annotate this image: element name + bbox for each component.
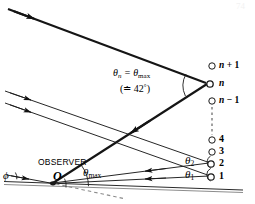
drop-label-4: 4: [219, 134, 224, 144]
horizon-line: [4, 182, 243, 193]
theta-n-formula: θn = θmax: [113, 68, 150, 80]
incoming-sunlight-ray-top: [8, 9, 206, 83]
drop-circle-1: [208, 174, 214, 180]
drop-circle-2: [208, 161, 214, 167]
theta-1-label: θ1: [185, 169, 194, 181]
drop-label-2: 2: [219, 158, 224, 168]
drop-circle-4: [209, 137, 215, 143]
incoming-ray-lower-thin: [5, 103, 209, 176]
origin-label: O: [53, 170, 62, 182]
drop-label-n: n: [219, 79, 224, 89]
reflected-ray-to-observer: [53, 84, 207, 183]
drop-circle-n-plus-1: [209, 63, 215, 69]
drop-index-symbol: n: [219, 78, 224, 88]
drop-label-1: 1: [219, 171, 224, 181]
drop-circle-n: [207, 81, 213, 87]
theta-2-subscript: 2: [190, 159, 194, 168]
drop-circle-3: [209, 149, 215, 155]
drop-label-n-plus-1: n + 1: [219, 61, 239, 71]
drop-index-suffix: + 1: [224, 60, 239, 70]
drop-label-n-minus-1: n − 1: [219, 96, 239, 106]
diagram-canvas: [0, 0, 255, 204]
formula-max-subscript: max: [138, 72, 150, 80]
rainbow-ray-diagram: OBSERVER O ϕ θmax θn = θmax (≐ 42°) θ2 θ…: [0, 0, 255, 204]
phi-label: ϕ: [3, 170, 9, 181]
theta-2-label: θ2: [185, 155, 194, 167]
drop-circle-n-minus-1: [209, 98, 215, 104]
observer-label: OBSERVER: [38, 158, 87, 167]
theta-max-label: θmax: [83, 167, 101, 179]
angle-arc-theta-n: [183, 74, 186, 96]
page-corner-mark: 74: [236, 1, 245, 11]
approx-value: (≐ 42: [120, 83, 144, 94]
drop-label-3: 3: [219, 146, 224, 156]
formula-equals-theta: = θ: [121, 67, 138, 78]
drop-index-suffix: − 1: [224, 95, 239, 105]
theta-1-subscript: 1: [190, 173, 194, 182]
paren-close: ): [147, 83, 150, 94]
theta-max-subscript: max: [88, 171, 101, 180]
angle-arc-phi: [15, 173, 17, 180]
theta-n-value-annotation: (≐ 42°): [120, 84, 150, 94]
